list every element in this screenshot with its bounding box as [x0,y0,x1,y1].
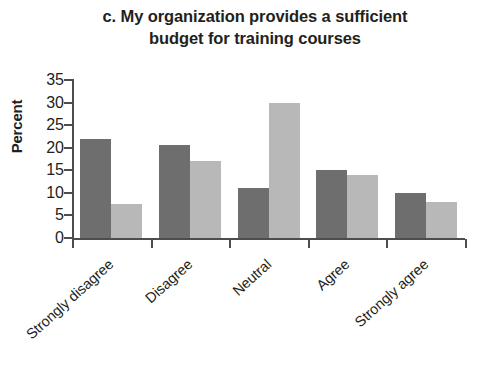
x-axis-category-labels: Strongly disagreeDisagreeNeutralAgreeStr… [0,0,480,369]
bar-chart-figure: c. My organization provides a sufficient… [0,0,480,369]
